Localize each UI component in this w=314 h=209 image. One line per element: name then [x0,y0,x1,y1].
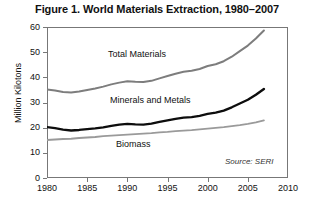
y-tick-label: 60 [2,23,40,32]
series-label-biomass: Biomass [116,139,151,149]
line-series [47,31,264,93]
x-tick-label: 2010 [268,184,308,193]
x-tick-label: 1990 [107,184,147,193]
y-tick-mark [43,77,47,78]
figure-title: Figure 1. World Materials Extraction, 19… [0,3,314,15]
x-tick-mark [168,178,169,182]
source-note: Source: SERI [225,157,273,166]
y-tick-mark [43,27,47,28]
y-axis-title: Million Kilotons [13,33,23,153]
y-tick-label: 0 [2,174,40,183]
x-tick-mark [248,178,249,182]
x-tick-mark [87,178,88,182]
x-tick-label: 2000 [188,184,228,193]
y-tick-mark [43,153,47,154]
y-tick-mark [43,128,47,129]
figure-container: Figure 1. World Materials Extraction, 19… [0,0,314,209]
x-tick-label: 1980 [27,184,67,193]
y-tick-mark [43,52,47,53]
x-tick-label: 1985 [67,184,107,193]
x-tick-label: 2005 [228,184,268,193]
x-tick-mark [127,178,128,182]
y-tick-mark [43,103,47,104]
y-tick-mark [43,178,47,179]
x-tick-label: 1995 [148,184,188,193]
series-label-total-materials: Total Materials [108,49,166,59]
series-label-minerals-and-metals: Minerals and Metals [110,95,191,105]
x-tick-mark [208,178,209,182]
